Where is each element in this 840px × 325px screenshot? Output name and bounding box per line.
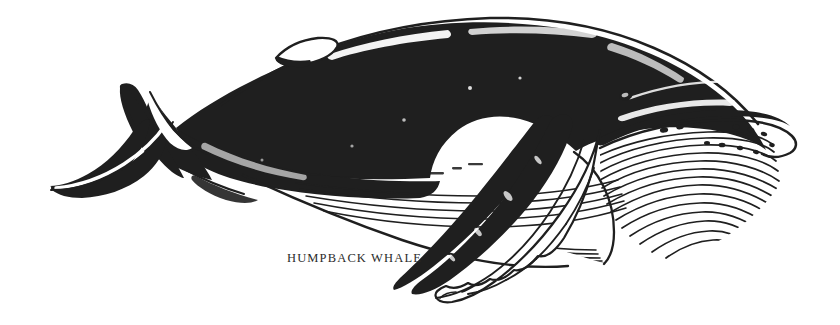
figure-caption: HUMPBACK WHALE	[287, 252, 422, 265]
illustration-page: HUMPBACK WHALE	[0, 0, 840, 325]
humpback-whale-illustration	[0, 0, 840, 325]
